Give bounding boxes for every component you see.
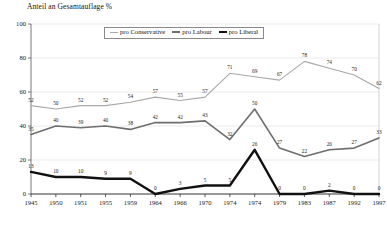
data-point-label: 0 <box>303 185 306 191</box>
x-axis-tick-label: 1983 <box>290 199 318 206</box>
legend-item-pro-liberal: pro Liberal <box>219 29 258 36</box>
x-axis-tick-label: 1997 <box>365 199 387 206</box>
data-point-label: 26 <box>252 141 257 147</box>
data-point-label: 5 <box>204 177 207 183</box>
legend-item-pro-labour: pro Labour <box>172 29 211 36</box>
data-point-label: 0 <box>154 185 157 191</box>
data-point-label: 39 <box>78 119 83 125</box>
legend-label-labour: pro Labour <box>182 29 211 36</box>
data-point-label: 9 <box>104 170 107 176</box>
data-point-label: 52 <box>28 97 33 103</box>
data-point-label: 26 <box>327 141 332 147</box>
data-point-label: 22 <box>302 148 307 154</box>
data-point-label: 13 <box>28 163 33 169</box>
data-point-label: 67 <box>277 71 282 77</box>
data-point-label: 27 <box>277 139 282 145</box>
data-point-label: 5 <box>229 177 232 183</box>
y-axis-tick-label: 40 <box>2 122 26 129</box>
legend-swatch-icon-labour <box>172 31 180 33</box>
x-axis-tick-label: 1950 <box>42 199 70 206</box>
data-point-label: 42 <box>177 114 182 120</box>
x-axis-tick-label: 1987 <box>315 199 343 206</box>
data-point-label: 43 <box>202 112 207 118</box>
x-axis-tick-label: 1974 <box>241 199 269 206</box>
y-axis-tick-label: 0 <box>2 190 26 197</box>
data-point-label: 38 <box>128 120 133 126</box>
data-point-label: 62 <box>376 80 381 86</box>
data-point-label: 9 <box>129 170 132 176</box>
legend-item-pro-conservative: pro Conservative <box>110 29 165 36</box>
data-point-label: 32 <box>227 131 232 137</box>
data-point-label: 42 <box>153 114 158 120</box>
data-point-label: 2 <box>328 182 331 188</box>
data-point-label: 40 <box>103 117 108 123</box>
data-point-label: 55 <box>177 92 182 98</box>
data-point-label: 10 <box>78 168 83 174</box>
x-axis-tick-label: 1945 <box>17 199 45 206</box>
legend-label-liberal: pro Liberal <box>229 29 258 36</box>
x-axis-tick-label: 1979 <box>266 199 294 206</box>
data-point-label: 0 <box>278 185 281 191</box>
data-point-label: 50 <box>252 100 257 106</box>
x-axis-tick-label: 1992 <box>340 199 368 206</box>
legend-label-conservative: pro Conservative <box>120 29 165 36</box>
data-point-label: 52 <box>103 97 108 103</box>
y-axis-tick-label: 20 <box>2 156 26 163</box>
x-axis-tick-label: 1966 <box>166 199 194 206</box>
y-axis-tick-label: 60 <box>2 88 26 95</box>
legend-swatch-icon-liberal <box>219 31 227 33</box>
x-axis-tick-label: 1964 <box>141 199 169 206</box>
data-point-label: 50 <box>53 100 58 106</box>
data-point-label: 71 <box>227 64 232 70</box>
y-axis-tick-label: 100 <box>2 20 26 27</box>
legend-swatch-icon-conservative <box>110 32 118 33</box>
x-axis-tick-label: 1970 <box>191 199 219 206</box>
data-point-label: 0 <box>378 185 381 191</box>
data-point-label: 52 <box>78 97 83 103</box>
x-axis-tick-label: 1955 <box>92 199 120 206</box>
data-point-label: 70 <box>351 66 356 72</box>
chart-legend: pro Conservative pro Labour pro Liberal <box>104 27 264 39</box>
data-point-label: 0 <box>353 185 356 191</box>
chart-container: Anteil an Gesamtauflage % pro Conservati… <box>0 0 387 226</box>
data-point-label: 35 <box>28 126 33 132</box>
x-axis-tick-label: 1959 <box>116 199 144 206</box>
data-point-label: 33 <box>376 129 381 135</box>
data-point-label: 54 <box>128 93 133 99</box>
data-point-label: 10 <box>53 168 58 174</box>
data-point-label: 3 <box>179 180 182 186</box>
data-point-label: 40 <box>53 117 58 123</box>
data-point-label: 78 <box>302 52 307 58</box>
data-point-label: 69 <box>252 68 257 74</box>
data-point-label: 27 <box>351 139 356 145</box>
x-axis-tick-label: 1974 <box>216 199 244 206</box>
data-point-label: 57 <box>153 88 158 94</box>
data-point-label: 74 <box>327 59 332 65</box>
x-axis-tick-label: 1951 <box>67 199 95 206</box>
y-axis-tick-label: 80 <box>2 54 26 61</box>
data-point-label: 57 <box>202 88 207 94</box>
